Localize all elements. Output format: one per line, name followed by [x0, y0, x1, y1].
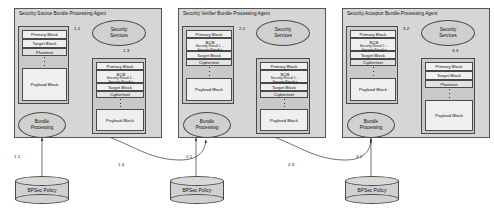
- step-label-2-3: 2.3: [288, 162, 294, 167]
- policy-label: BPSec Policy: [345, 185, 399, 195]
- bundle-verifier-output[interactable]: Primary Block BCB Security Result 1 ... …: [256, 58, 310, 134]
- block-target: Target Block: [350, 51, 396, 59]
- block-target: Target Block: [260, 83, 308, 91]
- agent-title-source: Security Source Bundle Processing Agent: [19, 11, 106, 16]
- block-target: Target Block: [22, 39, 67, 48]
- ellipsis-dots: [208, 67, 210, 76]
- security-services-verifier[interactable]: Security Services: [256, 20, 310, 46]
- ellipsis-dots: [372, 67, 374, 76]
- step-label-2-2: 2.2: [239, 26, 245, 31]
- block-bcb: BCB Security Result 1 ... Security Resul…: [96, 70, 144, 83]
- block-target-content: Ciphertext: [96, 91, 144, 98]
- policy-store-source[interactable]: BPSec Policy: [15, 176, 69, 204]
- step-label-1-3: 1.3: [123, 48, 129, 53]
- cylinder-bottom: [345, 194, 399, 204]
- bundle-source-output[interactable]: Primary Block BCB Security Result 1 ... …: [92, 58, 146, 134]
- bundle-acceptor-input[interactable]: Primary Block BCB Security Result 1 ... …: [346, 26, 398, 104]
- bundle-processing-verifier[interactable]: Bundle Processing: [183, 112, 231, 138]
- block-target-content: Plaintext: [22, 48, 67, 56]
- block-target-content: Ciphertext: [260, 91, 308, 98]
- block-payload: Payload Block: [425, 100, 473, 131]
- policy-store-verifier[interactable]: BPSec Policy: [170, 176, 224, 204]
- ellipsis-dots: [119, 99, 121, 107]
- cylinder-bottom: [15, 194, 69, 204]
- processing-label-line2: Processing: [196, 125, 219, 131]
- step-label-3-1: 3.1: [356, 154, 362, 159]
- ellipsis-dots: [283, 99, 285, 107]
- block-primary: Primary Block: [96, 62, 144, 70]
- block-primary: Primary Block: [350, 30, 396, 38]
- processing-label-line2: Processing: [31, 125, 54, 131]
- block-target-content: Plaintext: [425, 80, 473, 88]
- ellipsis-dots: [43, 57, 45, 66]
- block-target: Target Block: [425, 71, 473, 80]
- step-label-3-2: 3.2: [403, 26, 409, 31]
- agent-title-acceptor: Security Acceptor Bundle Processing Agen…: [347, 11, 437, 16]
- agent-title-verifier: Security Verifier Bundle Processing Agen…: [183, 11, 270, 16]
- security-services-source[interactable]: Security Services: [92, 20, 146, 46]
- services-label-line2: Services: [439, 33, 457, 39]
- security-services-acceptor[interactable]: Security Services: [421, 20, 475, 46]
- bundle-acceptor-output[interactable]: Primary Block Target Block Plaintext Pay…: [421, 58, 475, 134]
- policy-label: BPSec Policy: [170, 185, 224, 195]
- block-bcb: BCB Security Result 1 ... Security Resul…: [350, 38, 396, 51]
- cylinder-bottom: [170, 194, 224, 204]
- services-label-line2: Services: [110, 33, 128, 39]
- step-label-1-2: 1.2: [74, 26, 80, 31]
- block-bcb: BCB Security Result 1 ... Security Resul…: [186, 38, 232, 51]
- block-payload: Payload Block: [96, 109, 144, 131]
- policy-label: BPSec Policy: [15, 185, 69, 195]
- ellipsis-dots: [448, 89, 450, 98]
- block-payload: Payload Block: [22, 68, 67, 101]
- block-primary: Primary Block: [425, 62, 473, 71]
- step-label-2-1: 2.1: [186, 154, 192, 159]
- block-bcb: BCB Security Result 1 ... Security Resul…: [260, 70, 308, 83]
- block-target-content: Ciphertext: [350, 59, 396, 66]
- step-label-1-1: 1.1: [14, 154, 20, 159]
- block-target-content: Ciphertext: [186, 59, 232, 66]
- block-primary: Primary Block: [186, 30, 232, 38]
- block-target: Target Block: [186, 51, 232, 59]
- block-primary: Primary Block: [260, 62, 308, 70]
- processing-label-line2: Processing: [360, 125, 383, 131]
- block-primary: Primary Block: [22, 30, 67, 39]
- bundle-source-input[interactable]: Primary Block Target Block Plaintext Pay…: [18, 26, 69, 104]
- block-payload: Payload Block: [260, 109, 308, 131]
- services-label-line2: Services: [274, 33, 292, 39]
- bundle-verifier-input[interactable]: Primary Block BCB Security Result 1 ... …: [182, 26, 234, 104]
- policy-store-acceptor[interactable]: BPSec Policy: [345, 176, 399, 204]
- block-payload: Payload Block: [350, 78, 396, 101]
- step-label-1-4: 1.4: [118, 162, 124, 167]
- block-payload: Payload Block: [186, 78, 232, 101]
- step-label-3-3: 3.3: [452, 48, 458, 53]
- bundle-processing-acceptor[interactable]: Bundle Processing: [347, 112, 395, 138]
- diagram-canvas: Security Source Bundle Processing Agent …: [0, 0, 494, 208]
- bundle-processing-source[interactable]: Bundle Processing: [18, 112, 66, 138]
- block-target: Target Block: [96, 83, 144, 91]
